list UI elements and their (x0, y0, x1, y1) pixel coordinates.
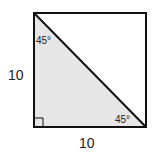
bottom-right-angle-label: 45° (115, 114, 130, 125)
square-diagram: 45° 45° 10 10 (0, 0, 152, 153)
bottom-side-length-label: 10 (79, 135, 95, 151)
top-angle-label: 45° (36, 35, 51, 46)
left-side-length-label: 10 (8, 67, 24, 83)
